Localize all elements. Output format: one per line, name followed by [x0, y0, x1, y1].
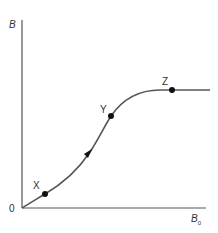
direction-arrow-icon	[84, 149, 92, 158]
point-z-label: Z	[162, 76, 168, 87]
magnetization-curve-diagram: B B0 0 X Y Z	[0, 0, 218, 233]
point-y-label: Y	[100, 104, 107, 115]
b-curve	[22, 90, 210, 208]
point-x-label: X	[33, 180, 40, 191]
point-y-marker	[108, 113, 114, 119]
point-z-marker	[169, 87, 175, 93]
point-x-marker	[42, 191, 48, 197]
x-axis-label: B0	[191, 213, 202, 226]
y-axis-label: B	[9, 19, 16, 30]
origin-label: 0	[9, 203, 15, 214]
